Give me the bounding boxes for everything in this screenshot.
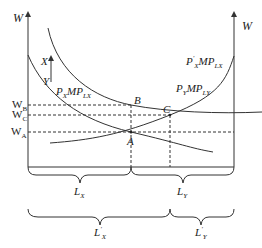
point-a-label: A: [127, 136, 134, 147]
curve-px-mplx: [28, 55, 213, 152]
brace-label-ly: LY: [177, 186, 187, 197]
point-b-label: B: [134, 95, 141, 106]
wage-label-c: WC: [12, 109, 27, 120]
wage-label-a: WA: [11, 126, 26, 137]
brace-label-ly-prime: L'Y: [195, 227, 207, 238]
label-px-mplx: PXMPLX: [56, 86, 91, 97]
brace-lx: [28, 167, 131, 183]
left-axis-label: W: [13, 12, 23, 24]
curve-py-mply: [50, 56, 234, 143]
brace-label-lx-prime: L'X: [94, 227, 106, 238]
curve-px-prime-mplx: [48, 28, 262, 113]
shift-arrow-bottom-label: Y: [43, 76, 49, 87]
point-a: [130, 131, 133, 134]
brace-ly-prime: [170, 209, 234, 225]
shift-arrow-top-label: X: [41, 56, 48, 67]
point-c-label: C: [163, 104, 170, 115]
labor-market-diagram: [0, 0, 262, 248]
right-axis-label: W: [242, 20, 252, 32]
brace-lx-prime: [28, 209, 170, 225]
label-py-mply: PYMPLY: [176, 83, 210, 94]
brace-label-lx: LX: [74, 186, 84, 197]
brace-ly: [131, 167, 234, 183]
label-px-prime-mplx: P'XMPLX: [186, 56, 223, 67]
